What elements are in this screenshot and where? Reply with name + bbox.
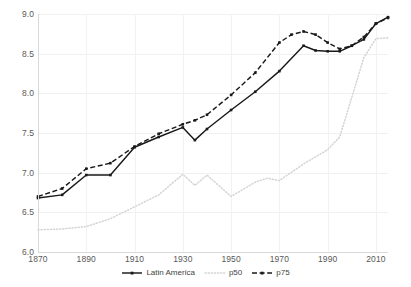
- x-tick-label-7: 2010: [366, 254, 385, 264]
- x-tick-label-2: 1910: [125, 254, 144, 264]
- series-line-p75: [38, 18, 388, 197]
- legend-label: p50: [229, 268, 242, 277]
- data-point-marker: [61, 194, 64, 197]
- series-line-p50: [38, 38, 388, 230]
- data-point-marker: [387, 17, 390, 20]
- data-point-marker: [338, 50, 341, 53]
- data-point-marker: [109, 174, 112, 177]
- data-point-marker: [302, 44, 305, 47]
- data-point-marker: [230, 109, 233, 112]
- legend-swatch-solid-icon: [121, 269, 143, 277]
- data-point-marker: [326, 50, 329, 53]
- data-point-marker: [194, 139, 197, 142]
- data-point-marker: [182, 126, 185, 129]
- data-point-marker: [254, 90, 257, 93]
- data-point-marker: [230, 94, 233, 97]
- data-point-marker: [302, 30, 305, 33]
- legend-swatch-dotted-icon: [204, 269, 226, 277]
- data-point-marker: [278, 70, 281, 73]
- legend-item-latin-america[interactable]: Latin America: [121, 268, 194, 277]
- data-point-marker: [338, 48, 341, 51]
- data-point-marker: [157, 136, 160, 139]
- x-tick-label-5: 1970: [270, 254, 289, 264]
- plot-area: [38, 14, 388, 252]
- data-point-marker: [363, 36, 366, 39]
- data-point-marker: [85, 167, 88, 170]
- x-axis-line: [38, 252, 388, 253]
- x-tick-label-1: 1890: [77, 254, 96, 264]
- data-point-marker: [278, 41, 281, 44]
- series-line-latin-america: [38, 17, 388, 198]
- data-point-marker: [109, 162, 112, 165]
- data-point-marker: [157, 132, 160, 135]
- y-tick-label-6: 9.0: [22, 9, 34, 19]
- data-point-marker: [206, 128, 209, 131]
- series-lines: [38, 14, 388, 252]
- y-tick-label-2: 7.0: [22, 168, 34, 178]
- y-tick-label-4: 8.0: [22, 88, 34, 98]
- data-point-marker: [363, 38, 366, 41]
- line-chart: 6.06.57.07.58.08.59.0 187018901910193019…: [0, 0, 411, 287]
- x-tick-label-4: 1950: [221, 254, 240, 264]
- data-point-marker: [133, 145, 136, 148]
- data-point-marker: [61, 187, 64, 190]
- legend-label: p75: [276, 268, 289, 277]
- x-tick-label-3: 1930: [173, 254, 192, 264]
- y-axis-line: [38, 14, 39, 252]
- data-point-marker: [375, 22, 378, 25]
- data-point-marker: [314, 33, 317, 36]
- data-point-marker: [85, 174, 88, 177]
- data-point-marker: [194, 119, 197, 122]
- data-point-marker: [350, 44, 353, 47]
- legend-swatch-dashed-icon: [251, 269, 273, 277]
- legend-label: Latin America: [146, 268, 194, 277]
- y-tick-label-5: 8.5: [22, 49, 34, 59]
- legend-item-p50[interactable]: p50: [204, 268, 242, 277]
- data-point-marker: [290, 33, 293, 36]
- y-axis-tick-labels: 6.06.57.07.58.08.59.0: [0, 0, 34, 287]
- data-point-marker: [314, 49, 317, 52]
- chart-legend: Latin Americap50p75: [0, 268, 411, 277]
- y-tick-label-3: 7.5: [22, 128, 34, 138]
- data-point-marker: [206, 113, 209, 116]
- x-tick-label-6: 1990: [318, 254, 337, 264]
- legend-item-p75[interactable]: p75: [251, 268, 289, 277]
- data-point-marker: [182, 123, 185, 126]
- data-point-marker: [254, 71, 257, 74]
- y-tick-label-1: 6.5: [22, 207, 34, 217]
- x-tick-label-0: 1870: [28, 254, 47, 264]
- data-point-marker: [326, 41, 329, 44]
